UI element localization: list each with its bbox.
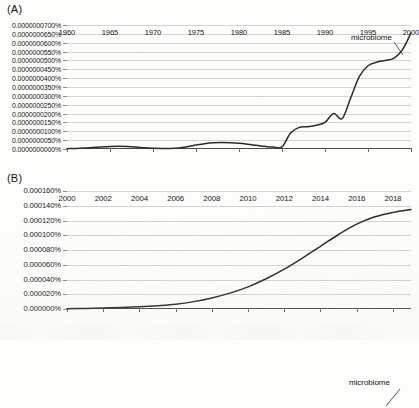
chart-a-y-tick-label: 0.0000000500% [12,57,61,64]
panel-a: (A) 0.0000000700%0.0000000650%0.00000006… [0,0,419,170]
chart-b-y-tick-label: 0.000100% [23,231,61,239]
chart-a-y-tick-label: 0.0000000550% [12,48,61,55]
chart-a-leader-line [394,42,410,56]
chart-b-y-tick-label: 0.000060% [23,261,61,269]
chart-b-y-tick-label: 0.000020% [23,290,61,298]
chart-b-y-tick-label: 0.000160% [23,187,61,195]
chart-a-y-tick-label: 0.0000000600% [12,39,61,46]
chart-a-y-tick-label: 0.0000000350% [12,84,61,91]
chart-a-plot-area: 0.0000000700%0.0000000650%0.0000000600%0… [67,25,411,149]
chart-a-y-tick-label: 0.0000000700% [12,22,61,29]
chart-b-y-tick-label: 0.000000% [23,305,61,313]
chart-b-y-tick-label: 0.000040% [23,276,61,284]
chart-b-plot-area: 0.000160%0.000140%0.000120%0.000100%0.00… [67,191,411,309]
chart-a-y-tick-label: 0.0000000100% [12,128,61,135]
chart-a-y-tick-label: 0.0000000000% [12,146,61,153]
panel-b: (B) 0.000160%0.000140%0.000120%0.000100%… [0,170,419,340]
chart-b-y-tick-label: 0.000140% [23,202,61,210]
chart-a-x-tick-mark [411,148,412,152]
chart-a-y-tick-label: 0.0000000300% [12,92,61,99]
chart-a-y-tick-label: 0.0000000450% [12,66,61,73]
panel-a-label: (A) [7,3,22,15]
chart-a-y-tick-label: 0.0000000150% [12,119,61,126]
chart-a-y-tick-label: 0.0000000250% [12,101,61,108]
chart-b-y-tick-label: 0.000120% [23,217,61,225]
chart-a-series-label: microbiome [351,33,392,42]
chart-a-y-tick-label: 0.0000000200% [12,110,61,117]
chart-b-leader-line [386,388,408,408]
chart-b-series-microbiome [67,191,411,309]
chart-b-series-label: microbiome [349,378,390,387]
chart-a-y-tick-label: 0.0000000650% [12,30,61,37]
chart-b-y-tick-label: 0.000080% [23,246,61,254]
chart-a-y-tick-label: 0.0000000400% [12,75,61,82]
chart-a-y-tick-label: 0.0000000050% [12,137,61,144]
panel-b-label: (B) [7,172,22,184]
chart-a-series-microbiome [67,25,411,149]
